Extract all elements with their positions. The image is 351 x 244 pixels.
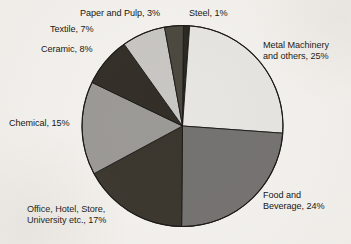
slice-label-office-hotel-store: Office, Hotel, Store, University etc., 1… — [27, 204, 106, 227]
slice-label-metal-machinery: Metal Machinery and others, 25% — [263, 40, 329, 63]
slice-label-steel: Steel, 1% — [189, 8, 227, 19]
slice-label-chemical: Chemical, 15% — [9, 118, 70, 129]
slice-label-ceramic: Ceramic, 8% — [41, 44, 93, 55]
pie-chart-figure: Paper and Pulp, 3% Steel, 1% Textile, 7%… — [0, 0, 351, 244]
slice-label-textile: Textile, 7% — [50, 24, 93, 35]
slice-label-food-and-beverage: Food and Beverage, 24% — [263, 190, 325, 213]
slice-label-paper-and-pulp: Paper and Pulp, 3% — [80, 8, 160, 19]
pie-slice-group — [82, 25, 283, 226]
